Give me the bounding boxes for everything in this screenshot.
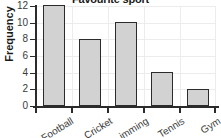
bar-gym xyxy=(187,89,209,106)
x-tick-1 xyxy=(71,108,73,113)
chart-title: Favourite sport xyxy=(0,0,221,5)
y-tick-10 xyxy=(30,23,36,24)
y-tick-6 xyxy=(30,56,36,57)
gridline-x-5 xyxy=(215,6,216,107)
x-tick-5 xyxy=(214,108,216,113)
bar-swimming xyxy=(115,22,137,106)
x-axis-line xyxy=(33,106,219,108)
gridline-x-1 xyxy=(72,6,73,107)
y-tick-4 xyxy=(30,73,36,74)
x-tick-label-football: Football xyxy=(19,116,75,138)
y-tick-8 xyxy=(30,39,36,40)
x-tick-3 xyxy=(143,108,145,113)
bar-cricket xyxy=(79,39,101,106)
x-tick-4 xyxy=(179,108,181,113)
y-tick-12 xyxy=(30,6,36,7)
y-tick-label-12: 12 xyxy=(8,1,28,11)
gridline-x-4 xyxy=(180,6,181,107)
plot-area xyxy=(36,6,216,107)
bar-football xyxy=(43,5,65,106)
bar-tennis xyxy=(151,72,173,106)
gridline-x-3 xyxy=(144,6,145,107)
y-tick-label-8: 8 xyxy=(8,34,28,44)
y-tick-2 xyxy=(30,89,36,90)
gridline-x-2 xyxy=(108,6,109,107)
x-tick-0 xyxy=(35,108,37,113)
y-tick-label-2: 2 xyxy=(8,84,28,94)
y-tick-0 xyxy=(30,106,36,107)
y-tick-label-4: 4 xyxy=(8,68,28,78)
y-tick-label-10: 10 xyxy=(8,18,28,28)
bar-chart: Favourite sport Frequency 0 2 4 6 8 xyxy=(0,0,221,138)
x-tick-2 xyxy=(107,108,109,113)
y-tick-label-6: 6 xyxy=(8,51,28,61)
y-tick-label-0: 0 xyxy=(8,101,28,111)
